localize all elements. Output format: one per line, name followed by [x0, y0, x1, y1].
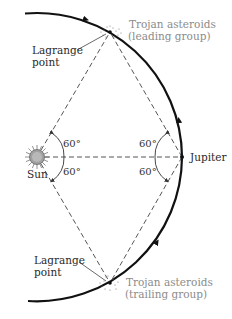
lagrange-point-l5: [108, 281, 112, 285]
lagrange-label-bottom-line1: Lagrange: [34, 254, 85, 266]
jupiter-marker: [180, 155, 184, 159]
lagrange-point-l4: [108, 30, 112, 34]
angle-label-sun-lower: 60°: [63, 166, 81, 177]
sun-icon: [25, 145, 49, 169]
lagrange-label-top-line2: point: [32, 56, 60, 68]
dashed-triangle-lines: [37, 32, 182, 283]
lagrange-label-top-line1: Lagrange: [32, 44, 83, 56]
angle-label-sun-upper: 60°: [63, 138, 81, 149]
angle-label-jupiter-lower: 60°: [139, 166, 157, 177]
trojan-leading-label-line1: Trojan asteroids: [129, 18, 216, 30]
lagrange-diagram: 60° 60° 60° 60° Sun Jupiter: [0, 0, 232, 319]
trojan-trailing-label-line1: Trojan asteroids: [126, 276, 213, 288]
jupiter-label: Jupiter: [189, 151, 227, 163]
orbit-direction-arrows: [78, 17, 180, 248]
angle-label-jupiter-upper: 60°: [139, 138, 157, 149]
trojan-leading-label-line2: (leading group): [128, 30, 210, 42]
trojan-trailing-label-line2: (trailing group): [125, 288, 207, 300]
sun-label: Sun: [27, 168, 48, 180]
lagrange-label-bottom-line2: point: [34, 266, 62, 278]
